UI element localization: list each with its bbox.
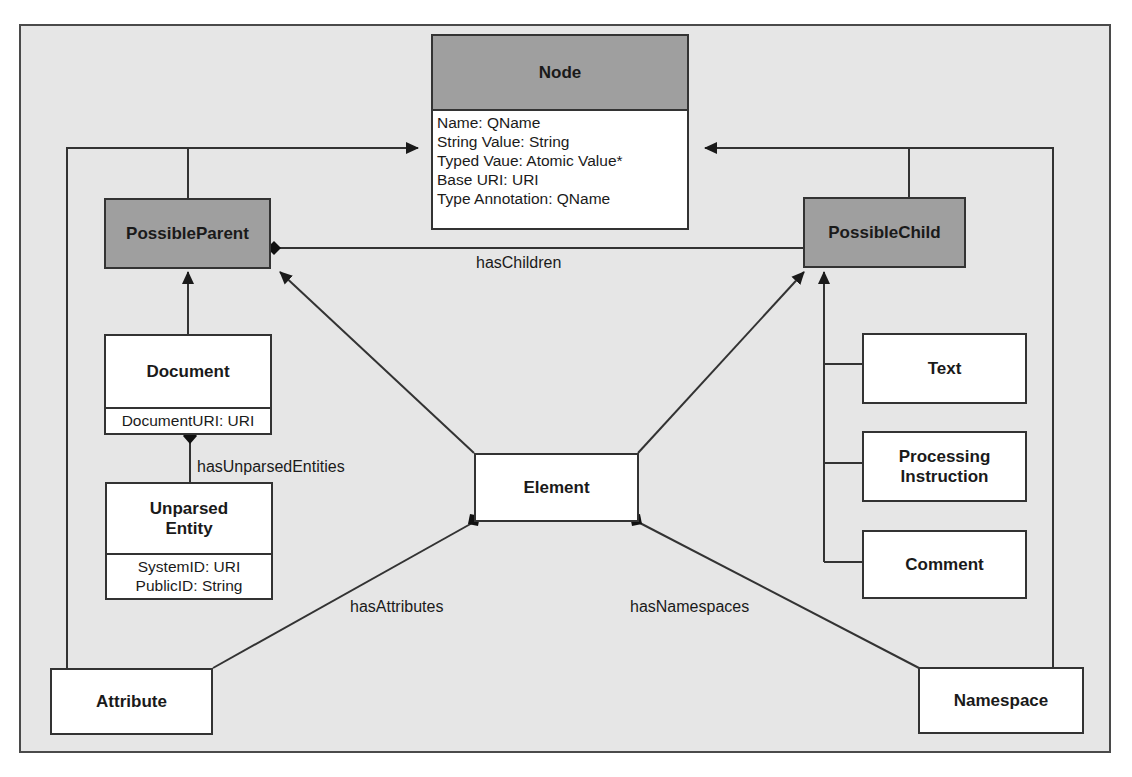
class-namespace-name: Namespace — [920, 669, 1082, 732]
class-namespace: Namespace — [918, 667, 1084, 734]
class-element-name: Element — [476, 455, 637, 520]
class-document: Document DocumentURI: URI — [104, 334, 272, 435]
class-text-name: Text — [864, 335, 1025, 402]
class-comment-name: Comment — [864, 532, 1025, 597]
attribute-document-uri: DocumentURI: URI — [110, 411, 266, 430]
class-possible-child-name: PossibleChild — [805, 199, 964, 266]
attribute-base-uri: Base URI: URI — [437, 170, 683, 189]
attribute-type-annotation: Type Annotation: QName — [437, 189, 683, 208]
class-name-line1: Unparsed — [150, 499, 228, 519]
class-name-line2: Entity — [165, 519, 212, 539]
class-unparsed-entity: Unparsed Entity SystemID: URI PublicID: … — [105, 482, 273, 600]
class-possible-child: PossibleChild — [803, 197, 966, 268]
class-element: Element — [474, 453, 639, 522]
class-name-line2: Instruction — [901, 467, 989, 487]
class-document-attributes: DocumentURI: URI — [106, 407, 270, 433]
label-has-unparsed-entities: hasUnparsedEntities — [197, 458, 345, 476]
class-document-name: Document — [106, 336, 270, 407]
label-has-namespaces: hasNamespaces — [630, 598, 749, 616]
label-has-children: hasChildren — [476, 254, 561, 272]
class-unparsed-entity-name: Unparsed Entity — [107, 484, 271, 553]
class-attribute-name: Attribute — [52, 670, 211, 733]
label-has-attributes: hasAttributes — [350, 598, 443, 616]
class-unparsed-entity-attributes: SystemID: URI PublicID: String — [107, 553, 271, 598]
attribute-string-value: String Value: String — [437, 132, 683, 151]
class-processing-instruction: Processing Instruction — [862, 431, 1027, 502]
class-node-attributes: Name: QName String Value: String Typed V… — [433, 109, 687, 228]
class-name-line1: Processing — [899, 447, 991, 467]
class-possible-parent: PossibleParent — [104, 198, 271, 269]
class-attribute: Attribute — [50, 668, 213, 735]
attribute-public-id: PublicID: String — [111, 576, 267, 595]
attribute-typed-value: Typed Vaue: Atomic Value* — [437, 151, 683, 170]
class-possible-parent-name: PossibleParent — [106, 200, 269, 267]
class-comment: Comment — [862, 530, 1027, 599]
attribute-system-id: SystemID: URI — [111, 557, 267, 576]
class-processing-instruction-name: Processing Instruction — [864, 433, 1025, 500]
attribute-name: Name: QName — [437, 113, 683, 132]
class-node: Node Name: QName String Value: String Ty… — [431, 34, 689, 230]
class-node-name: Node — [433, 36, 687, 109]
class-text: Text — [862, 333, 1027, 404]
